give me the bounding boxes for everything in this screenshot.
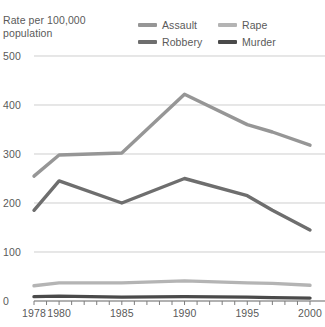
gridlines — [34, 56, 325, 301]
axis-tickmarks — [34, 301, 310, 305]
series-line-robbery — [34, 179, 310, 230]
data-series — [34, 94, 310, 298]
series-line-murder — [34, 296, 310, 298]
line-chart: Rate per 100,000 population Assault Rape… — [0, 0, 325, 327]
plot-area — [0, 0, 325, 327]
series-line-rape — [34, 281, 310, 286]
series-line-assault — [34, 94, 310, 176]
